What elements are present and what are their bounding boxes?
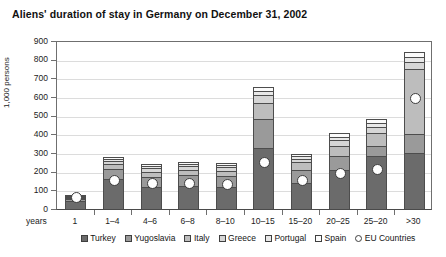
legend-swatch-icon: [315, 235, 322, 242]
bar-segment[interactable]: [291, 183, 312, 209]
legend-item-label: Italy: [194, 233, 210, 243]
legend-item-label: Spain: [325, 233, 347, 243]
bar-segment[interactable]: [291, 162, 312, 169]
y-axis-tick-label: 300: [14, 148, 48, 158]
x-axis-tick-mark: [357, 210, 358, 215]
y-axis-tick-label: 400: [14, 129, 48, 139]
x-axis-tick-mark: [319, 210, 320, 215]
gridline: [57, 98, 431, 99]
bar-segment[interactable]: [366, 146, 387, 156]
bar-segment[interactable]: [141, 187, 162, 209]
legend-marker-icon: [355, 235, 362, 242]
x-axis-tick-label: >30: [390, 216, 436, 226]
legend-item-label: Turkey: [90, 233, 116, 243]
bar-stack[interactable]: [253, 87, 274, 209]
legend-item-label: Yugoslavia: [134, 233, 175, 243]
x-axis-title: years: [26, 216, 47, 226]
x-axis-tick-mark: [244, 210, 245, 215]
bar-stack[interactable]: [404, 52, 425, 209]
x-axis-tick-mark: [282, 210, 283, 215]
legend-item[interactable]: EU Countries: [355, 233, 415, 243]
bar-segment[interactable]: [404, 134, 425, 153]
y-axis-tick-label: 0: [14, 204, 48, 214]
eu-countries-marker[interactable]: [222, 179, 233, 190]
legend-item[interactable]: Turkey: [81, 233, 116, 243]
legend-item[interactable]: Greece: [219, 233, 256, 243]
y-axis-tick-label: 800: [14, 54, 48, 64]
legend-item-label: Greece: [228, 233, 256, 243]
bar-segment[interactable]: [404, 62, 425, 69]
bar-segment[interactable]: [253, 95, 274, 102]
y-axis-tick-label: 500: [14, 110, 48, 120]
y-axis-tick-label: 600: [14, 92, 48, 102]
legend-item-label: Portugal: [274, 233, 306, 243]
y-axis-title: 1,000 persons: [2, 57, 11, 108]
legend-swatch-icon: [125, 235, 132, 242]
y-axis-tick-label: 100: [14, 185, 48, 195]
eu-countries-marker[interactable]: [109, 175, 120, 186]
x-axis-tick-mark: [94, 210, 95, 215]
y-axis-tick-label: 200: [14, 166, 48, 176]
legend-item-label: EU Countries: [365, 233, 416, 243]
x-axis-tick-mark: [394, 210, 395, 215]
plot-area: [56, 41, 432, 210]
gridline: [57, 61, 431, 62]
legend-swatch-icon: [184, 235, 191, 242]
legend-swatch-icon: [219, 235, 226, 242]
y-axis-tick-label: 700: [14, 73, 48, 83]
chart-title: Aliens' duration of stay in Germany on D…: [12, 8, 307, 20]
bar-segment[interactable]: [253, 103, 274, 120]
legend-swatch-icon: [81, 235, 88, 242]
x-axis-tick-mark: [206, 210, 207, 215]
gridline: [57, 79, 431, 80]
legend-item[interactable]: Yugoslavia: [125, 233, 176, 243]
eu-countries-marker[interactable]: [147, 178, 158, 189]
legend-item[interactable]: Italy: [184, 233, 209, 243]
bar-segment[interactable]: [178, 186, 199, 209]
x-axis-tick-mark: [169, 210, 170, 215]
bar-segment[interactable]: [404, 153, 425, 209]
chart-container: Aliens' duration of stay in Germany on D…: [0, 0, 446, 257]
bar-segment[interactable]: [366, 133, 387, 145]
x-axis-tick-mark: [131, 210, 132, 215]
eu-countries-marker[interactable]: [410, 93, 421, 104]
chart-legend: TurkeyYugoslaviaItalyGreecePortugalSpain…: [56, 233, 440, 243]
gridline: [57, 117, 431, 118]
bar-segment[interactable]: [253, 119, 274, 148]
legend-item[interactable]: Portugal: [265, 233, 306, 243]
bar-segment[interactable]: [329, 146, 350, 156]
legend-swatch-icon: [265, 235, 272, 242]
legend-item[interactable]: Spain: [315, 233, 346, 243]
eu-countries-marker[interactable]: [335, 168, 346, 179]
y-axis-tick-label: 900: [14, 36, 48, 46]
